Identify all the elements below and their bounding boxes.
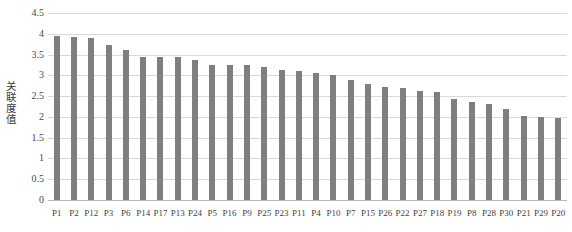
bar-slot	[463, 13, 480, 200]
bar-slot	[480, 13, 497, 200]
y-axis-tick-label: 1	[39, 153, 44, 163]
bar[interactable]	[330, 75, 336, 200]
bar[interactable]	[296, 71, 302, 200]
bar-slot	[152, 13, 169, 200]
x-axis-tick-label: P25	[256, 203, 273, 225]
bar[interactable]	[555, 118, 561, 200]
x-axis-tick-label: P29	[532, 203, 549, 225]
x-axis-tick-label: P7	[342, 203, 359, 225]
bar-slot	[307, 13, 324, 200]
x-axis-tick-label: P23	[273, 203, 290, 225]
x-axis-tick-label: P16	[221, 203, 238, 225]
bar-slot	[290, 13, 307, 200]
x-axis-tick-label: P30	[498, 203, 515, 225]
bar-slot	[325, 13, 342, 200]
bar[interactable]	[434, 92, 440, 200]
bar-slot	[221, 13, 238, 200]
bar-slot	[65, 13, 82, 200]
y-axis-tick-label: 0.5	[32, 174, 45, 184]
bar[interactable]	[503, 109, 509, 200]
x-axis-tick-label: P6	[117, 203, 134, 225]
bar[interactable]	[157, 57, 163, 200]
y-axis-tick-labels: 4.543.532.521.510.50	[18, 0, 46, 205]
bar[interactable]	[382, 87, 388, 200]
bar-slot	[342, 13, 359, 200]
x-axis-tick-label: P15	[359, 203, 376, 225]
bar-slot	[256, 13, 273, 200]
bar[interactable]	[54, 36, 60, 200]
bar-slot	[204, 13, 221, 200]
bars-layer	[48, 13, 567, 200]
bar-slot	[100, 13, 117, 200]
bar-slot	[394, 13, 411, 200]
bar[interactable]	[71, 37, 77, 200]
bar[interactable]	[140, 57, 146, 200]
x-axis-tick-label: P2	[65, 203, 82, 225]
y-axis-tick-label: 1.5	[32, 133, 45, 143]
bar[interactable]	[123, 50, 129, 200]
x-axis-tick-label: P26	[377, 203, 394, 225]
bar-slot	[377, 13, 394, 200]
bar-slot	[550, 13, 567, 200]
bar[interactable]	[469, 102, 475, 200]
bar-slot	[134, 13, 151, 200]
x-axis-tick-label: P8	[463, 203, 480, 225]
bar-slot	[238, 13, 255, 200]
bar-slot	[411, 13, 428, 200]
x-axis-tick-label: P22	[394, 203, 411, 225]
x-axis-tick-label: P17	[152, 203, 169, 225]
bar-slot	[532, 13, 549, 200]
bar[interactable]	[261, 67, 267, 200]
y-axis-tick-label: 2.5	[32, 91, 45, 101]
y-axis-tick-label: 4	[39, 29, 44, 39]
x-axis-tick-label: P3	[100, 203, 117, 225]
bar[interactable]	[486, 104, 492, 200]
y-axis-title: 关联度值	[1, 0, 19, 205]
bar[interactable]	[521, 116, 527, 200]
bar[interactable]	[175, 57, 181, 200]
x-axis-tick-label: P1	[48, 203, 65, 225]
bar[interactable]	[209, 65, 215, 200]
bar[interactable]	[365, 84, 371, 200]
y-axis-tick-label: 3	[39, 70, 44, 80]
bar[interactable]	[106, 45, 112, 200]
y-axis-tick-label: 0	[39, 195, 44, 205]
bar-slot	[83, 13, 100, 200]
x-axis-tick-label: P24	[186, 203, 203, 225]
bar-slot	[515, 13, 532, 200]
x-axis-tick-label: P9	[238, 203, 255, 225]
bar[interactable]	[244, 65, 250, 200]
bar[interactable]	[192, 60, 198, 200]
bar-slot	[186, 13, 203, 200]
bar-slot	[429, 13, 446, 200]
x-axis-tick-label: P21	[515, 203, 532, 225]
y-axis-tick-label: 3.5	[32, 50, 45, 60]
y-axis-tick-label: 2	[39, 112, 44, 122]
x-axis-tick-labels: P1P2P12P3P6P14P17P13P24P5P16P9P25P23P11P…	[48, 203, 567, 225]
x-axis-tick-label: P12	[83, 203, 100, 225]
bar-slot	[498, 13, 515, 200]
bar[interactable]	[538, 117, 544, 200]
x-axis-tick-label: P11	[290, 203, 307, 225]
x-axis-tick-label: P14	[134, 203, 151, 225]
x-axis-tick-label: P27	[411, 203, 428, 225]
bar[interactable]	[451, 99, 457, 200]
bar-slot	[48, 13, 65, 200]
bar[interactable]	[417, 91, 423, 200]
bar[interactable]	[348, 80, 354, 200]
bar-chart: 关联度值 4.543.532.521.510.50 P1P2P12P3P6P14…	[0, 0, 572, 232]
x-axis-tick-label: P19	[446, 203, 463, 225]
x-axis-tick-label: P4	[307, 203, 324, 225]
bar[interactable]	[88, 38, 94, 200]
bar-slot	[359, 13, 376, 200]
bar-slot	[273, 13, 290, 200]
x-axis-line	[48, 200, 567, 201]
bar-slot	[169, 13, 186, 200]
bar[interactable]	[400, 88, 406, 200]
bar[interactable]	[227, 65, 233, 200]
x-axis-tick-label: P28	[480, 203, 497, 225]
plot-area	[48, 13, 567, 200]
bar[interactable]	[279, 70, 285, 200]
bar[interactable]	[313, 73, 319, 200]
x-axis-tick-label: P18	[429, 203, 446, 225]
